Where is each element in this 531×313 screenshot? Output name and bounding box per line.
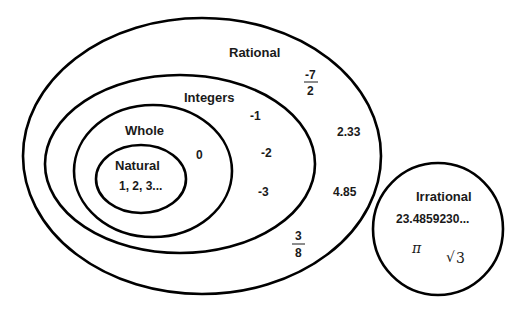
integers-label: Integers [184, 90, 235, 105]
fraction-numerator: -7 [305, 68, 316, 82]
fraction-numerator: 3 [295, 229, 302, 243]
natural-label: Natural [115, 158, 160, 173]
integer-member-neg1: -1 [250, 109, 261, 123]
fraction-denominator: 8 [295, 246, 302, 260]
sqrt-argument: 3 [456, 250, 465, 266]
rational-member-4-85: 4.85 [333, 185, 357, 199]
whole-label: Whole [125, 123, 164, 138]
irrational-member-decimal: 23.4859230... [396, 212, 469, 226]
integer-member-neg2: -2 [261, 146, 272, 160]
fraction-denominator: 2 [307, 84, 314, 98]
rational-member-2-33: 2.33 [337, 125, 361, 139]
rational-label: Rational [229, 45, 280, 60]
pi-symbol: π [411, 240, 422, 256]
fraction-neg7-over-2: -7 2 [304, 68, 318, 98]
irrational-label: Irrational [416, 189, 472, 204]
natural-members: 1, 2, 3... [119, 179, 162, 193]
integer-member-neg3: -3 [258, 185, 269, 199]
fraction-3-over-8: 3 8 [292, 229, 305, 260]
number-sets-diagram: Rational Integers Whole Natural 1, 2, 3.… [0, 0, 531, 313]
irrational-set-circle [373, 163, 503, 295]
whole-member-zero: 0 [196, 148, 203, 162]
sqrt-symbol: √ [446, 249, 455, 265]
